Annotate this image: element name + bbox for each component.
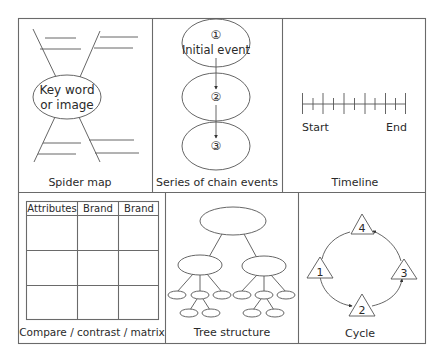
tree-caption: Tree structure [193, 326, 271, 339]
timeline-caption: Timeline [331, 176, 379, 189]
timeline-ticks [303, 93, 406, 114]
spider-center-ellipse [33, 75, 101, 119]
spider-map-caption: Spider map [48, 176, 111, 189]
spider-center-line1: Key word [39, 83, 94, 97]
tree-root-node [200, 207, 266, 235]
spider-center-line2: or image [40, 98, 93, 112]
chain-step-1-number: ① [211, 28, 222, 42]
cycle-arrows [320, 231, 402, 306]
panel-spider-map: Key word or image Spider map [33, 29, 139, 189]
panel-tree: Tree structure [168, 207, 295, 339]
panel-matrix: Attributes Brand Brand Compare / contras… [19, 201, 165, 338]
tree-leaves [168, 291, 295, 317]
matrix-header-attributes: Attributes [27, 203, 76, 214]
svg-text:3: 3 [401, 267, 408, 280]
graphic-organizers-diagram: Key word or image Spider map ① Initial e… [0, 0, 438, 352]
chain-step-1-label: Initial event [182, 43, 251, 57]
panel-timeline: Start End Timeline [302, 93, 407, 189]
timeline-start-label: Start [302, 121, 330, 134]
chain-step-3-number: ③ [211, 139, 222, 153]
cycle-node-2: 2 [349, 294, 375, 317]
cycle-node-4: 4 [351, 214, 374, 235]
chain-events-caption: Series of chain events [156, 176, 278, 189]
matrix-caption: Compare / contrast / matrix [19, 326, 165, 338]
timeline-end-label: End [386, 121, 407, 134]
cycle-caption: Cycle [345, 327, 375, 340]
panel-chain-events: ① Initial event ② ③ Series of chain even… [156, 19, 278, 189]
matrix-header-brand-2: Brand [124, 203, 154, 214]
panel-cycle: 4 1 3 2 Cycle [307, 214, 417, 340]
cycle-node-3: 3 [391, 259, 417, 280]
svg-text:4: 4 [359, 222, 366, 235]
tree-left-child [178, 255, 222, 275]
svg-text:1: 1 [317, 266, 324, 279]
chain-step-2-number: ② [211, 90, 222, 104]
cycle-node-1: 1 [307, 257, 333, 279]
svg-text:2: 2 [359, 304, 366, 317]
matrix-grid [26, 201, 159, 320]
matrix-header-brand-1: Brand [83, 203, 113, 214]
tree-right-child [242, 256, 286, 276]
